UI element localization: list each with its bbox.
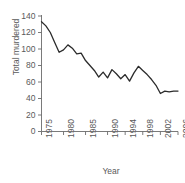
tick-marks [38, 16, 178, 135]
data-series-line [42, 22, 179, 94]
line-chart: Total murdered Year 020406080100120140 1… [0, 0, 185, 183]
chart-page: Total murdered Year 020406080100120140 1… [0, 0, 185, 183]
plot-svg [0, 0, 185, 183]
